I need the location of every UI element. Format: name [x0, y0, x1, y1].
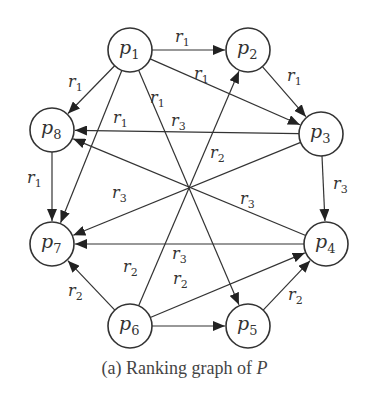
edge-label: r3 — [112, 183, 127, 205]
node-p5: p5 — [226, 304, 270, 348]
edge-label: r3 — [333, 174, 348, 196]
edge-label: r1 — [68, 72, 83, 94]
edge-label: r2 — [173, 269, 188, 291]
figure-caption: (a) Ranking graph of P — [0, 358, 369, 379]
edge-label: r1 — [175, 27, 190, 49]
edge-label: r1 — [287, 66, 302, 88]
node-p6: p6 — [108, 304, 152, 348]
edge-p5-to-p4 — [263, 261, 310, 310]
edge-p3-to-p7 — [73, 142, 300, 235]
ranking-graph: r1r1r1r1r1r1r1r3r2r3r3r3r3r2r2r2r2 p1p2p… — [0, 0, 369, 395]
edge-p3-to-p4 — [322, 156, 325, 221]
edge-line — [73, 142, 300, 235]
edge-line — [322, 156, 325, 221]
node-p3: p3 — [299, 112, 343, 156]
edge-label: r2 — [210, 143, 225, 165]
caption-variable: P — [256, 358, 267, 378]
edge-label: r2 — [123, 257, 138, 279]
edge-label: r3 — [171, 111, 186, 133]
node-p7: p7 — [30, 222, 74, 266]
caption-prefix: (a) Ranking graph of — [102, 358, 257, 378]
edge-label: r3 — [172, 244, 187, 266]
edge-label: r2 — [288, 285, 303, 307]
node-p8: p8 — [30, 108, 74, 152]
node-p1: p1 — [108, 28, 152, 72]
edge-label: r3 — [240, 189, 255, 211]
edge-label: r2 — [68, 281, 83, 303]
edge-label: r1 — [27, 168, 42, 190]
edge-line — [75, 130, 299, 133]
node-p2: p2 — [226, 28, 270, 72]
edges-layer — [52, 50, 325, 326]
edge-labels-layer: r1r1r1r1r1r1r1r3r2r3r3r3r3r2r2r2r2 — [27, 27, 348, 307]
edge-label: r1 — [150, 88, 165, 110]
edge-label: r1 — [194, 64, 209, 86]
edge-p3-to-p8 — [75, 130, 299, 133]
edge-label: r1 — [113, 108, 128, 130]
edge-line — [263, 261, 310, 310]
node-p4: p4 — [304, 222, 348, 266]
